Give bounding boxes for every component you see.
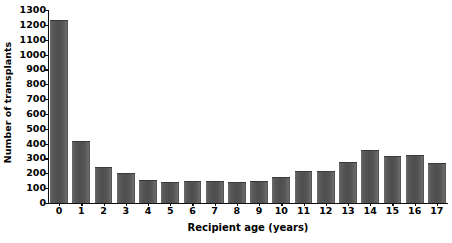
bar (184, 181, 202, 203)
y-tick-label: 200 (14, 169, 46, 179)
x-tick-label: 7 (211, 206, 218, 216)
bar (161, 182, 179, 203)
bar (361, 150, 379, 203)
plot-area (48, 10, 448, 203)
x-tick-label: 16 (408, 206, 421, 216)
y-tick-label: 900 (14, 65, 46, 75)
x-tick-label: 6 (189, 206, 196, 216)
x-axis-tick-labels: 01234567891011121314151617 (48, 206, 448, 220)
x-tick-label: 10 (275, 206, 288, 216)
bar (117, 173, 135, 203)
bar (206, 181, 224, 203)
x-tick-label: 4 (145, 206, 152, 216)
x-tick-label: 3 (122, 206, 129, 216)
x-tick-label: 17 (430, 206, 443, 216)
x-tick-label: 13 (341, 206, 354, 216)
bar (228, 182, 246, 203)
y-axis-title-text: Number of transplants (3, 42, 14, 163)
y-axis-tick-labels: 0100200300400500600700800900100011001200… (14, 0, 46, 210)
x-tick-label: 14 (364, 206, 377, 216)
bar (95, 167, 113, 203)
bar (139, 180, 157, 203)
x-tick-label: 8 (234, 206, 241, 216)
bar (50, 20, 68, 203)
y-tick-label: 100 (14, 183, 46, 193)
bar (272, 177, 290, 203)
x-tick-label: 12 (319, 206, 332, 216)
x-axis-title: Recipient age (years) (48, 222, 448, 233)
y-tick-label: 0 (14, 198, 46, 208)
y-tick-label: 700 (14, 94, 46, 104)
bar (317, 171, 335, 203)
y-tick-label: 1000 (14, 50, 46, 60)
y-tick-mark (45, 203, 49, 204)
x-tick-label: 15 (386, 206, 399, 216)
y-tick-label: 1300 (14, 5, 46, 15)
bars-group (48, 10, 448, 203)
bar-chart: Number of transplants 010020030040050060… (0, 0, 452, 243)
y-tick-label: 400 (14, 139, 46, 149)
bar (295, 171, 313, 203)
y-tick-label: 1200 (14, 20, 46, 30)
bar (339, 162, 357, 203)
y-tick-label: 500 (14, 124, 46, 134)
x-tick-label: 11 (297, 206, 310, 216)
x-tick-label: 2 (100, 206, 107, 216)
bar (406, 155, 424, 203)
x-tick-label: 0 (56, 206, 63, 216)
x-tick-label: 9 (256, 206, 263, 216)
y-tick-label: 1100 (14, 35, 46, 45)
bar (72, 141, 90, 203)
y-tick-label: 800 (14, 79, 46, 89)
y-tick-label: 300 (14, 154, 46, 164)
bar (428, 163, 446, 203)
x-tick-label: 5 (167, 206, 174, 216)
y-tick-label: 600 (14, 109, 46, 119)
x-tick-label: 1 (78, 206, 85, 216)
bar (250, 181, 268, 203)
bar (384, 156, 402, 204)
